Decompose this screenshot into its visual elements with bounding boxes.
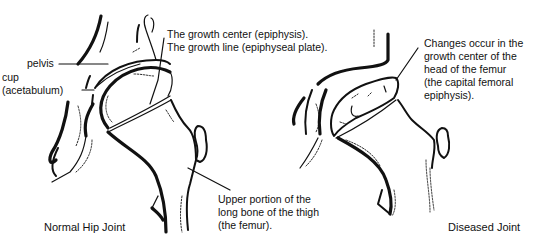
label-pelvis: pelvis	[27, 57, 54, 70]
label-changes-3: head of the femur	[424, 63, 506, 76]
label-changes-5: epiphysis).	[424, 89, 474, 102]
label-growth-line: The growth line (epiphyseal plate).	[167, 41, 328, 54]
label-acetabulum: (acetabulum)	[2, 84, 63, 97]
label-femur-3: (the femur).	[218, 219, 272, 232]
label-changes-2: growth center of the	[424, 50, 517, 63]
caption-diseased-joint: Diseased Joint	[448, 221, 520, 234]
label-femur-2: long bone of the thigh	[218, 206, 319, 219]
label-growth-center: The growth center (epiphysis).	[167, 28, 308, 41]
label-changes-4: (the capital femoral	[424, 76, 513, 89]
label-cup: cup	[2, 71, 19, 84]
label-femur-1: Upper portion of the	[218, 193, 311, 206]
caption-normal-hip-joint: Normal Hip Joint	[44, 221, 125, 234]
label-changes-1: Changes occur in the	[424, 37, 523, 50]
